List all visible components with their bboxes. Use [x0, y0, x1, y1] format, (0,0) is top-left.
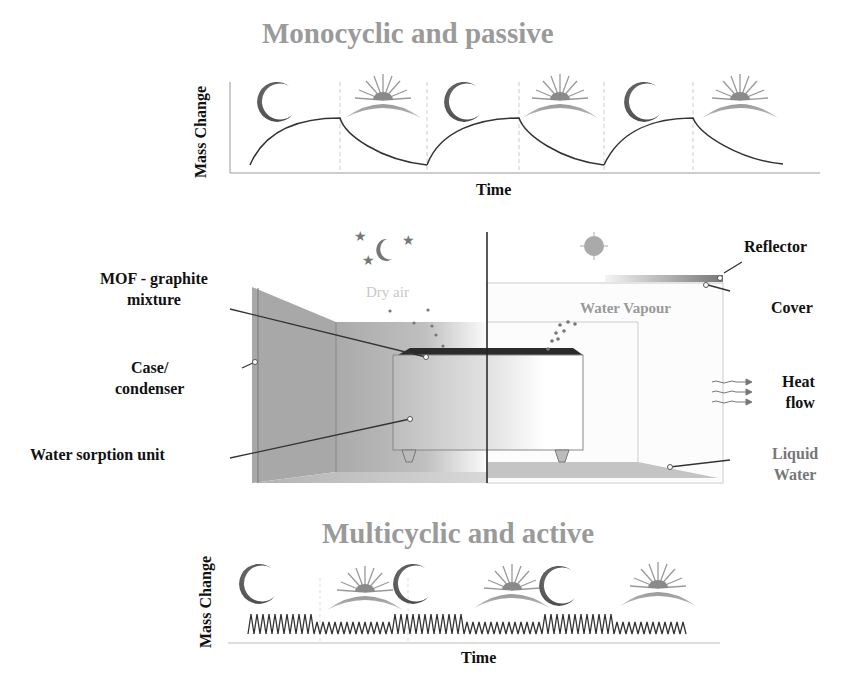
- water-sorption-unit: [393, 348, 583, 462]
- top-mass-curve: [250, 118, 783, 165]
- diagram-graphics: ★★★: [0, 0, 854, 685]
- label-line: Water: [772, 464, 818, 485]
- bottom-mass-curve: [248, 614, 686, 634]
- bottom-xlabel: Time: [461, 649, 496, 667]
- label-line: condenser: [115, 378, 184, 399]
- bottom-icons: [239, 562, 696, 610]
- night-sky: ★★★: [354, 229, 415, 268]
- label-line: MOF - graphite: [100, 268, 208, 289]
- label-case-condenser: Case/ condenser: [115, 357, 184, 399]
- label-line: Heat: [782, 371, 815, 392]
- label-cover: Cover: [771, 297, 813, 318]
- label-water-sorption-unit: Water sorption unit: [30, 444, 165, 465]
- label-liquid-water: Liquid Water: [772, 443, 818, 485]
- reflector: [605, 275, 723, 282]
- svg-text:★: ★: [402, 233, 415, 248]
- label-reflector: Reflector: [744, 236, 807, 257]
- label-dry-air: Dry air: [366, 284, 409, 301]
- svg-text:★: ★: [354, 229, 367, 244]
- label-mof-graphite: MOF - graphite mixture: [100, 268, 208, 310]
- label-line: Liquid: [772, 443, 818, 464]
- label-heat-flow: Heat flow: [782, 371, 815, 413]
- label-line: flow: [782, 392, 815, 413]
- svg-text:★: ★: [362, 253, 375, 268]
- label-line: mixture: [100, 289, 208, 310]
- bottom-ylabel: Mass Change: [197, 556, 215, 648]
- label-line: Case/: [115, 357, 184, 378]
- day-sun: [580, 232, 608, 260]
- bottom-panel-title: Multicyclic and active: [322, 517, 594, 550]
- label-water-vapour: Water Vapour: [580, 300, 671, 317]
- top-icons: [257, 74, 778, 122]
